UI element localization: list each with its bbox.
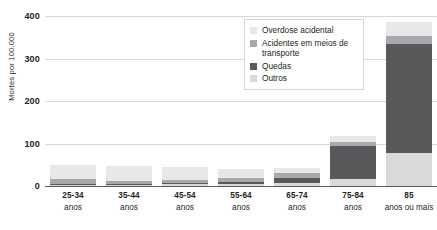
bar-segment [218,169,264,178]
x-axis-labels: 25-34anos35-44anos45-54anos55-64anos65-7… [45,190,437,213]
bar-segment [330,146,376,179]
stacked-bar[interactable] [50,165,96,186]
x-axis-label: 75-84anos [325,190,381,213]
bar-segment [386,44,432,152]
stacked-bar[interactable] [218,169,264,186]
x-label-unit: anos [269,202,325,214]
legend-label: Acidentes em meios de transporte [262,38,356,59]
bar-slot [157,16,213,187]
bar-segment [50,165,96,179]
stacked-bar[interactable] [274,168,320,186]
bar-segment [386,36,432,45]
stacked-bar[interactable] [330,136,376,186]
chart-legend: Overdose acidentalAcidentes em meios de … [244,19,364,90]
bar-segment [106,166,152,180]
y-tick-label-0: 0 [35,181,40,191]
legend-swatch-icon [250,63,257,70]
legend-label: Outros [262,73,287,84]
y-tick-label-300: 300 [24,54,40,64]
legend-item[interactable]: Acidentes em meios de transporte [250,38,356,59]
bar-segment [162,167,208,180]
x-label-range: 25-34 [45,190,101,202]
x-axis-line [45,186,437,187]
legend-label: Quedas [262,61,291,72]
x-axis-label: 55-64anos [213,190,269,213]
plot-area: 0100200300400 [45,16,437,187]
y-tick-label-400: 400 [24,11,40,21]
x-label-range: 75-84 [325,190,381,202]
x-axis-label: 25-34anos [45,190,101,213]
x-label-unit: anos ou mais [381,202,437,214]
bar-group [45,16,437,187]
x-label-unit: anos [101,202,157,214]
stacked-bar[interactable] [106,166,152,186]
legend-swatch-icon [250,75,257,82]
x-label-range: 45-54 [157,190,213,202]
legend-swatch-icon [250,27,257,34]
stacked-bar[interactable] [386,22,432,186]
x-label-unit: anos [157,202,213,214]
y-tick-label-200: 200 [24,96,40,106]
bar-slot [381,16,437,187]
clipped-title-fragment [0,0,437,6]
x-axis-label: 35-44anos [101,190,157,213]
x-axis-label: 85anos ou mais [381,190,437,213]
stacked-bar[interactable] [162,167,208,186]
x-label-unit: anos [325,202,381,214]
x-label-range: 55-64 [213,190,269,202]
legend-swatch-icon [250,40,257,47]
legend-label: Overdose acidental [262,25,334,36]
x-label-range: 85 [381,190,437,202]
legend-item[interactable]: Outros [250,73,356,84]
y-tick-label-100: 100 [24,139,40,149]
x-axis-label: 45-54anos [157,190,213,213]
x-label-unit: anos [213,202,269,214]
bar-segment [386,153,432,186]
stacked-bar-chart: Mortes por 100.000 0100200300400 25-34an… [0,0,437,230]
legend-item[interactable]: Overdose acidental [250,25,356,36]
bar-slot [45,16,101,187]
legend-item[interactable]: Quedas [250,61,356,72]
x-label-range: 65-74 [269,190,325,202]
bar-segment [386,22,432,36]
y-axis-title: Mortes por 100.000 [7,5,16,129]
x-label-unit: anos [45,202,101,214]
x-axis-label: 65-74anos [269,190,325,213]
x-label-range: 35-44 [101,190,157,202]
bar-slot [101,16,157,187]
